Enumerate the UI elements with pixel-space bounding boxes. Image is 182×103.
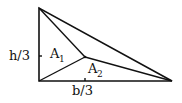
b-third-label: b/3 [72,83,93,98]
area-a2-subscript: 2 [97,69,103,79]
interior-to-top-line [39,8,85,57]
interior-point [84,56,87,59]
h-third-label: h/3 [9,48,30,63]
area-a1-subscript: 1 [59,54,65,64]
triangle-diagram: h/3 b/3 A 1 A 2 [0,0,182,103]
